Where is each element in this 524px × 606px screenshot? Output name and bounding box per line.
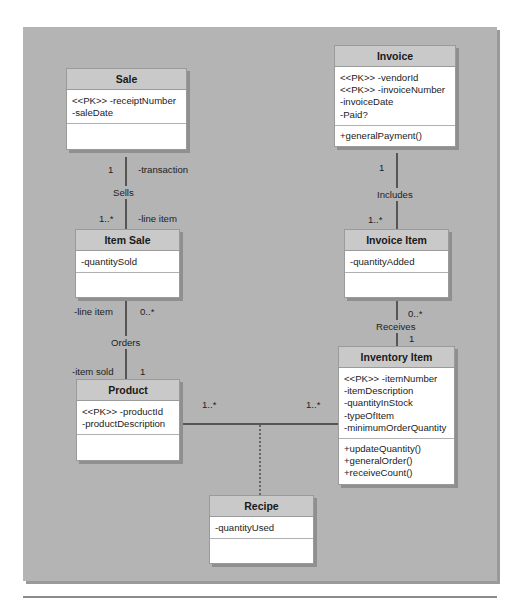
attribute: -Paid? (340, 109, 450, 121)
attribute: -quantityUsed (215, 522, 308, 534)
attribute: -saleDate (72, 107, 181, 119)
attribute: -productDescription (82, 418, 174, 430)
divider-rule (23, 596, 497, 598)
class-sale-attributes: <<PK>> -receiptNumber -saleDate (67, 90, 186, 124)
class-recipe[interactable]: Recipe -quantityUsed (209, 495, 314, 564)
product-inventory-line (178, 423, 338, 425)
product-side-mult: 1..* (202, 399, 216, 410)
operation: +generalPayment() (340, 130, 450, 142)
attribute: -minimumOrderQuantity (344, 422, 449, 434)
receives-name: Receives (376, 320, 415, 333)
class-inventory-item-attributes: <<PK>> -itemNumber -itemDescription -qua… (339, 368, 454, 439)
class-item-sale[interactable]: Item Sale -quantitySold (75, 229, 180, 298)
recipe-association-dotted-line (259, 425, 261, 495)
includes-to-mult: 1..* (368, 214, 382, 225)
orders-from-mult: 0..* (140, 306, 154, 317)
attribute: -quantityAdded (350, 256, 443, 268)
attribute: -invoiceDate (340, 96, 450, 108)
attribute: <<PK>> -itemNumber (344, 373, 449, 385)
attribute: -itemDescription (344, 385, 449, 397)
attribute: <<PK>> -invoiceNumber (340, 84, 450, 96)
class-recipe-operations (210, 539, 313, 563)
orders-to-mult: 1 (140, 366, 145, 377)
class-invoice-operations: +generalPayment() (335, 126, 455, 146)
class-product[interactable]: Product <<PK>> -productId -productDescri… (76, 379, 180, 461)
attribute: <<PK>> -productId (82, 406, 174, 418)
sells-name: Sells (113, 186, 134, 199)
orders-to-role: -item sold (72, 366, 114, 377)
operation: +receiveCount() (344, 467, 449, 479)
sells-to-role: -line item (138, 213, 177, 224)
class-item-sale-attributes: -quantitySold (76, 251, 179, 273)
attribute: -quantitySold (81, 256, 174, 268)
class-invoice-name: Invoice (335, 46, 455, 67)
class-invoice[interactable]: Invoice <<PK>> -vendorId <<PK>> -invoice… (334, 45, 456, 147)
class-recipe-name: Recipe (210, 496, 313, 517)
attribute: <<PK>> -receiptNumber (72, 95, 181, 107)
attribute: <<PK>> -vendorId (340, 72, 450, 84)
includes-from-mult: 1 (379, 162, 384, 173)
attribute: -typeOfItem (344, 410, 449, 422)
class-item-sale-operations (76, 273, 179, 297)
receives-from-mult: 0..* (408, 308, 422, 319)
class-inventory-item[interactable]: Inventory Item <<PK>> -itemNumber -itemD… (338, 346, 455, 485)
attribute: -quantityInStock (344, 397, 449, 409)
class-item-sale-name: Item Sale (76, 230, 179, 251)
class-invoice-item-name: Invoice Item (345, 230, 448, 251)
sells-from-role: -transaction (138, 164, 188, 175)
class-recipe-attributes: -quantityUsed (210, 517, 313, 539)
class-product-attributes: <<PK>> -productId -productDescription (77, 401, 179, 435)
operation: +generalOrder() (344, 455, 449, 467)
class-invoice-item-attributes: -quantityAdded (345, 251, 448, 273)
class-sale[interactable]: Sale <<PK>> -receiptNumber -saleDate (66, 68, 187, 150)
receives-to-mult: 1 (409, 333, 414, 344)
orders-name: Orders (111, 336, 140, 349)
includes-name: Includes (377, 188, 413, 201)
class-product-name: Product (77, 380, 179, 401)
class-invoice-item-operations (345, 273, 448, 297)
class-invoice-item[interactable]: Invoice Item -quantityAdded (344, 229, 449, 298)
inventory-side-mult: 1..* (306, 399, 320, 410)
class-sale-operations (67, 124, 186, 149)
sells-to-mult: 1..* (99, 213, 113, 224)
class-inventory-item-name: Inventory Item (339, 347, 454, 368)
class-inventory-item-operations: +updateQuantity() +generalOrder() +recei… (339, 439, 454, 484)
class-product-operations (77, 435, 179, 460)
sells-from-mult: 1 (108, 164, 113, 175)
operation: +updateQuantity() (344, 443, 449, 455)
class-sale-name: Sale (67, 69, 186, 90)
orders-from-role: -line item (74, 306, 113, 317)
class-invoice-attributes: <<PK>> -vendorId <<PK>> -invoiceNumber -… (335, 67, 455, 126)
